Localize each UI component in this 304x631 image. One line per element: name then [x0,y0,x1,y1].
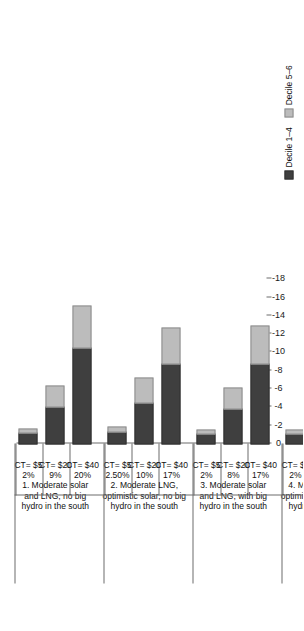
chart-legend: Decile 1–4Decile 5–6 [283,65,293,179]
bar-segment-decile-1-4 [223,408,242,444]
category-column-edge [14,494,303,495]
legend-swatch [284,108,293,117]
category-label: CT= $209% [299,459,304,479]
bar-stack [223,387,242,443]
axis-tick-label: 0 [275,437,280,447]
bar-segment-decile-5-6 [285,429,303,434]
category-ct-label: CT= $5 [272,459,304,469]
bar-stack [134,377,153,443]
category-label: CT= $52% [272,459,304,479]
axis-tick-label: -4 [274,400,282,410]
group-title-line: hydro in the south [273,500,303,511]
plot-area: 0-2-4-6-8-10-12-14-16-18 CT= $52%CT= $20… [0,0,303,631]
group-title-line: 1. Moderate solar [6,479,102,490]
group-separator [281,443,282,583]
bar-segment-decile-5-6 [18,428,37,433]
group-title-line: 4. Moderate solar, [273,479,303,490]
group-title-line: 3. Moderate solar [184,479,280,490]
bar-segment-decile-1-4 [134,402,153,444]
bar-stack [18,428,37,443]
bar-segment-decile-1-4 [250,363,269,444]
bar-stack [45,385,64,443]
bar-stack [250,325,269,443]
axis-tick-label: -16 [271,291,284,301]
category-pct-label: 2% [272,469,304,479]
bar-segment-decile-1-4 [285,433,303,444]
bar-stack [196,429,215,443]
group-title-line: 2. Moderate LNG, [95,479,191,490]
legend-item: Decile 5–6 [283,65,293,117]
bar-segment-decile-5-6 [250,325,269,363]
bar-segment-decile-5-6 [72,305,91,348]
bar-segment-decile-1-4 [72,347,91,444]
category-pct-label: 9% [299,469,304,479]
group-title-line: hydro in the south [184,500,280,511]
bar-segment-decile-5-6 [45,385,64,407]
bar-segment-decile-5-6 [134,377,153,403]
bar-segment-decile-1-4 [45,406,64,444]
group-separator [192,443,193,583]
rotated-figure: 0-2-4-6-8-10-12-14-16-18 CT= $52%CT= $20… [0,0,303,631]
legend-item: Decile 1–4 [283,127,293,179]
axis-tick [266,314,271,315]
group-separator [103,443,104,583]
axis-tick-label: -6 [274,382,282,392]
bar-stack [161,327,180,443]
bar-segment-decile-1-4 [107,431,126,444]
axis-tick-label: -10 [271,346,284,356]
bar-segment-decile-5-6 [196,429,215,434]
bar-segment-decile-1-4 [196,433,215,444]
axis-tick-label: -14 [271,309,284,319]
axis-tick [266,277,271,278]
group-separator [14,443,15,583]
group-title-line: hydro in the south [95,500,191,511]
axis-tick [266,296,271,297]
axis-tick-label: -18 [271,272,284,282]
bar-segment-decile-5-6 [223,387,242,409]
legend-swatch [284,170,293,179]
bar-segment-decile-5-6 [161,327,180,365]
chart-canvas: 0-2-4-6-8-10-12-14-16-18 CT= $52%CT= $20… [0,0,303,631]
bar-stack [285,429,303,443]
axis-tick-label: -8 [274,364,282,374]
category-ct-label: CT= $20 [299,459,304,469]
legend-label: Decile 5–6 [283,65,293,105]
axis-tick-label: -12 [271,327,284,337]
bar-stack [72,305,91,443]
group-title-line: hydro in the south [6,500,102,511]
axis-tick-label: -2 [274,419,282,429]
bar-stack [107,426,126,443]
bar-segment-decile-5-6 [107,426,126,432]
legend-label: Decile 1–4 [283,127,293,167]
bar-segment-decile-1-4 [161,363,180,444]
bar-segment-decile-1-4 [18,432,37,444]
